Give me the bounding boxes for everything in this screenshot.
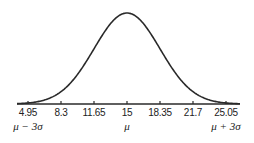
x-tick-label: 8.3 [54,107,67,118]
sigma-label: μ + 3σ [211,120,240,132]
x-tick-label: 21.7 [184,107,202,118]
sigma-label: μ − 3σ [13,120,42,132]
x-tick-label: 15 [122,107,133,118]
x-tick-label: 18.35 [148,107,172,118]
x-tick-label: 25.05 [214,107,238,118]
x-tick-label: 4.95 [19,107,37,118]
x-tick-label: 11.65 [83,107,106,118]
bell-curve [17,13,240,104]
sigma-label: μ [124,120,130,132]
